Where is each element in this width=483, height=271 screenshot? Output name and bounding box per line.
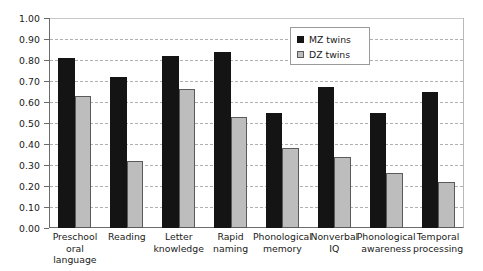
x-axis-label: Temporalprocessing [408, 231, 468, 254]
bar-mz [58, 58, 75, 228]
x-axis-label-line: oral language [45, 243, 105, 266]
x-axis-category-labels: Preschooloral languageReadingLetterknowl… [49, 231, 464, 271]
bar-dz [334, 157, 351, 228]
bar-dz [386, 173, 403, 228]
bar-dz [127, 161, 144, 228]
y-axis-tick-label: 0.60 [19, 97, 40, 108]
y-axis-tick-label: 0.80 [19, 55, 40, 66]
y-axis-tick-label: 0.10 [19, 202, 40, 213]
bar-group [422, 18, 455, 228]
y-axis-tick-label: 0.90 [19, 34, 40, 45]
y-axis-tick-label: 0.20 [19, 181, 40, 192]
bar-mz [162, 56, 179, 228]
bar-mz [266, 113, 283, 229]
bar-dz [231, 117, 248, 228]
y-axis-tick-label: 0.30 [19, 160, 40, 171]
bar-mz [214, 52, 231, 228]
bar-group [370, 18, 403, 228]
bar-dz [438, 182, 455, 228]
legend-swatch-dz-icon [297, 51, 304, 58]
legend-label-mz: MZ twins [309, 34, 351, 45]
bar-dz [75, 96, 92, 228]
bar-mz [422, 92, 439, 229]
bar-groups [49, 18, 464, 228]
bar-dz [179, 89, 196, 228]
x-axis-label-line: processing [408, 243, 468, 255]
bar-mz [110, 77, 127, 228]
bar-dz [282, 148, 299, 228]
bar-mz [370, 113, 387, 229]
bar-group [214, 18, 247, 228]
bar-group [162, 18, 195, 228]
legend-item-mz: MZ twins [297, 32, 369, 47]
legend-swatch-mz-icon [297, 36, 304, 43]
legend-label-dz: DZ twins [309, 49, 350, 60]
chart-legend: MZ twins DZ twins [290, 27, 370, 65]
y-axis-tick-label: 0.70 [19, 76, 40, 87]
bar-group [110, 18, 143, 228]
y-axis: 1.000.900.800.700.600.500.400.300.200.10… [0, 0, 49, 228]
y-axis-tick-mark [44, 228, 49, 229]
bar-mz [318, 87, 335, 228]
y-axis-tick-label: 1.00 [19, 13, 40, 24]
y-axis-tick-label: 0.40 [19, 139, 40, 150]
legend-item-dz: DZ twins [297, 47, 369, 62]
x-axis-label-line: Temporal [408, 231, 468, 243]
bar-group [58, 18, 91, 228]
y-axis-tick-label: 0.00 [19, 223, 40, 234]
y-axis-tick-label: 0.50 [19, 118, 40, 129]
twin-correlation-bar-chart: 1.000.900.800.700.600.500.400.300.200.10… [0, 0, 483, 271]
